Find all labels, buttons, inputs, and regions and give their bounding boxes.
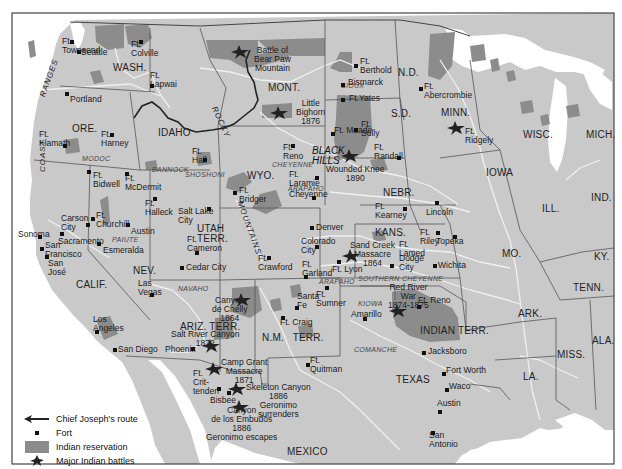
state-label-nebr: NEBR. — [383, 188, 415, 198]
place-label: Wichita — [438, 261, 466, 270]
tribe-label: MODOC — [82, 154, 110, 163]
state-label-wyo: WYO. — [247, 171, 274, 181]
western-us-indian-wars-map — [0, 0, 622, 469]
fort-marker-icon — [207, 207, 211, 211]
state-label-ky: KY. — [594, 252, 609, 262]
tribe-label: SHOSHONI — [185, 170, 225, 179]
state-label-wisc: WISC. — [523, 130, 553, 140]
place-label: Cheyenne — [289, 190, 328, 199]
fort-marker-icon — [139, 40, 143, 44]
place-label: Ft. Quitman — [310, 356, 342, 374]
fort-marker-icon — [325, 286, 329, 290]
state-label-miss: MISS. — [557, 350, 585, 360]
state-label-minn: MINN. — [441, 108, 470, 118]
legend-label: Major Indian battles — [56, 456, 135, 466]
fort-marker-icon — [453, 235, 457, 239]
place-label: Dodge City — [399, 254, 424, 272]
battle-star-icon — [230, 399, 250, 415]
fort-marker-icon — [354, 64, 358, 68]
legend-label: Chief Joseph's route — [56, 414, 138, 424]
fort-marker-icon — [304, 275, 308, 279]
fort-marker-icon — [315, 245, 319, 249]
place-label: Ft. Ridgely — [465, 127, 493, 145]
place-label: Denver — [316, 223, 343, 232]
fort-marker-icon — [150, 84, 154, 88]
place-label: Esmeralda — [103, 246, 144, 255]
fort-marker-icon — [77, 50, 81, 54]
state-label-la: LA. — [523, 372, 539, 382]
state-label-tenn: TENN. — [573, 283, 604, 293]
fort-marker-icon — [126, 223, 130, 227]
battle-star-icon — [269, 105, 289, 121]
place-label: Lincoln — [426, 208, 453, 217]
fort-marker-icon — [45, 255, 49, 259]
battle-label: Wounded Knee 1890 — [326, 165, 384, 183]
fort-marker-icon — [291, 144, 295, 148]
state-label-texas: TEXAS — [396, 375, 430, 385]
state-label-ill: ILL. — [542, 204, 559, 214]
fort-marker-icon — [306, 363, 310, 367]
state-label-mexico: MEXICO — [287, 447, 328, 457]
fort-marker-icon — [110, 133, 114, 137]
place-label: Ft. Lapwai — [150, 71, 177, 89]
fort-marker-icon — [331, 132, 335, 136]
battle-star-icon — [227, 381, 247, 397]
tribe-label: BANNOCK — [152, 165, 189, 174]
fort-marker-icon — [354, 128, 358, 132]
place-label: Ft.Yates — [349, 94, 380, 103]
fort-marker-icon — [195, 251, 199, 255]
battle-star-icon — [341, 248, 361, 264]
place-label: Waco — [449, 382, 470, 391]
place-label: Bismarck — [348, 78, 383, 87]
state-label-ind: IND. — [591, 193, 612, 203]
fort-marker-icon — [397, 156, 401, 160]
place-label: Portland — [70, 95, 102, 104]
battle-star-icon — [18, 455, 56, 467]
fort-marker-icon — [422, 351, 426, 355]
place-label: Ft. Sumner — [316, 290, 346, 308]
legend-label: Indian reservation — [56, 442, 128, 452]
place-label: Ft. Colville — [131, 40, 158, 58]
tribe-label: PAIUTE — [112, 235, 139, 244]
battle-star-icon — [201, 338, 221, 354]
place-label: Ft. Churchill — [96, 211, 129, 229]
legend-item-reservation: Indian reservation — [18, 440, 138, 454]
fort-marker-icon — [63, 144, 67, 148]
state-label-mich: MICH. — [586, 130, 615, 140]
fort-square-icon — [18, 428, 56, 438]
reservation-swatch-icon — [18, 441, 56, 453]
place-label: San Francisco — [45, 241, 82, 259]
fort-marker-icon — [65, 92, 69, 96]
fort-marker-icon — [341, 98, 345, 102]
place-label: Ft. Crawford — [258, 254, 292, 272]
fort-marker-icon — [431, 431, 435, 435]
fort-marker-icon — [125, 172, 129, 176]
fort-marker-icon — [281, 316, 285, 320]
place-label: Sonoma — [18, 230, 50, 239]
place-label: Cedar City — [186, 263, 226, 272]
place-label: Ft. Kearney — [375, 202, 407, 220]
state-label-ore: ORE. — [72, 124, 97, 134]
fort-marker-icon — [438, 410, 442, 414]
state-label-idaho: IDAHO — [158, 128, 191, 138]
battle-label: Little Bighorn 1876 — [296, 99, 325, 126]
place-label: San José — [48, 259, 66, 277]
place-label: Austin — [437, 399, 461, 408]
place-label: Carson City — [61, 214, 88, 232]
state-label-mont: MONT. — [268, 83, 300, 93]
fort-marker-icon — [113, 348, 117, 352]
legend-item-route: Chief Joseph's route — [18, 412, 138, 426]
tribe-label: COMANCHE — [354, 345, 397, 354]
fort-marker-icon — [442, 372, 446, 376]
battle-star-icon — [230, 44, 250, 60]
fort-marker-icon — [203, 158, 207, 162]
place-label: Ft. Abercrombie — [424, 82, 472, 100]
fort-marker-icon — [310, 226, 314, 230]
fort-marker-icon — [435, 201, 439, 205]
place-label: Ft. Halleck — [145, 199, 173, 217]
place-label: Ft. Harney — [101, 130, 128, 148]
tribe-label: CHEYENNE — [272, 160, 313, 169]
place-label: Ft. McDermit — [125, 174, 161, 192]
state-label-ark: ARK. — [518, 309, 542, 319]
fort-marker-icon — [86, 223, 90, 227]
